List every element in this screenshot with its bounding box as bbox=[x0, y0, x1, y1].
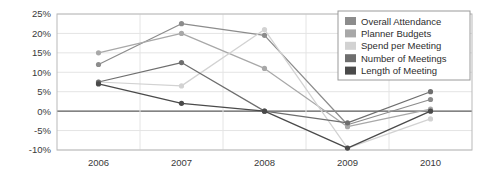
data-point bbox=[262, 66, 267, 71]
series-line-4 bbox=[99, 84, 431, 148]
data-point bbox=[428, 89, 433, 94]
data-point bbox=[262, 33, 267, 38]
data-point bbox=[96, 81, 101, 86]
data-point bbox=[179, 101, 184, 106]
data-point bbox=[179, 60, 184, 65]
legend-swatch-0 bbox=[345, 17, 356, 25]
data-point bbox=[262, 27, 267, 32]
data-point bbox=[179, 31, 184, 36]
data-point bbox=[179, 21, 184, 26]
y-axis-tick-label: 20% bbox=[32, 28, 52, 39]
x-axis-tick-label: 2009 bbox=[337, 157, 358, 168]
legend-swatch-4 bbox=[345, 67, 356, 75]
y-axis-tick-label: 0% bbox=[37, 106, 51, 117]
y-axis-tick-label: 15% bbox=[32, 47, 52, 58]
legend-label-4: Length of Meeting bbox=[361, 65, 437, 76]
data-point bbox=[428, 97, 433, 102]
data-point bbox=[345, 145, 350, 150]
data-point bbox=[262, 109, 267, 114]
data-point bbox=[179, 83, 184, 88]
y-axis-tick-label: 25% bbox=[32, 8, 52, 19]
x-axis-tick-label: 2006 bbox=[88, 157, 109, 168]
x-axis-tick-label: 2007 bbox=[171, 157, 192, 168]
y-axis-tick-label: -5% bbox=[34, 125, 51, 136]
y-axis-tick-label: 10% bbox=[32, 67, 52, 78]
legend-label-2: Spend per Meeting bbox=[361, 40, 441, 51]
chart-canvas: 25%20%15%10%5%0%-5%-10%20062007200820092… bbox=[0, 0, 480, 175]
data-point bbox=[96, 50, 101, 55]
legend-swatch-1 bbox=[345, 29, 356, 37]
legend: Overall AttendancePlanner BudgetsSpend p… bbox=[338, 11, 470, 80]
legend-swatch-2 bbox=[345, 42, 356, 50]
y-axis-tick-label: -10% bbox=[29, 144, 52, 155]
data-point bbox=[345, 120, 350, 125]
x-axis-tick-label: 2010 bbox=[420, 157, 441, 168]
x-axis-tick-label: 2008 bbox=[254, 157, 275, 168]
legend-label-0: Overall Attendance bbox=[361, 16, 441, 27]
legend-label-3: Number of Meetings bbox=[361, 53, 447, 64]
line-chart: 25%20%15%10%5%0%-5%-10%20062007200820092… bbox=[0, 0, 480, 175]
y-axis-tick-label: 5% bbox=[37, 86, 51, 97]
data-point bbox=[428, 116, 433, 121]
legend-label-1: Planner Budgets bbox=[361, 28, 431, 39]
legend-swatch-3 bbox=[345, 54, 356, 62]
data-point bbox=[96, 62, 101, 67]
data-point bbox=[428, 109, 433, 114]
